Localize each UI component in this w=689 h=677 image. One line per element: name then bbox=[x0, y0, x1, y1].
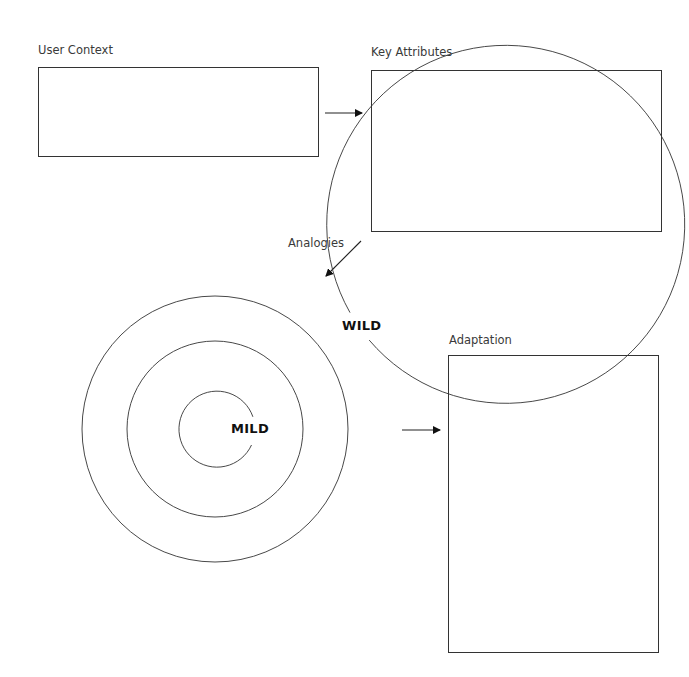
target-rings bbox=[82, 45, 685, 562]
wild-label: WILD bbox=[342, 318, 381, 333]
arrow-analogies bbox=[326, 241, 361, 276]
ring-outer bbox=[327, 45, 685, 403]
ring-3 bbox=[127, 341, 303, 517]
diagram-canvas bbox=[0, 0, 689, 677]
ring-2 bbox=[82, 296, 348, 562]
mild-label: MILD bbox=[231, 421, 269, 436]
